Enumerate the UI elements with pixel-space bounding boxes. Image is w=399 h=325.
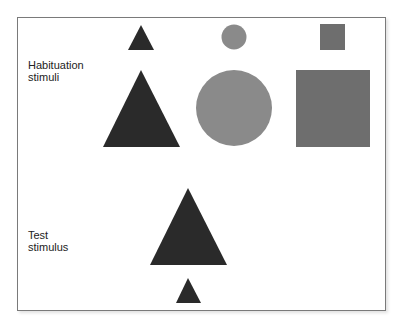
- test-large-triangle-icon: [150, 188, 227, 265]
- large-triangle-icon: [103, 70, 180, 147]
- large-square-icon: [296, 70, 370, 147]
- small-square-icon: [320, 24, 345, 50]
- test-small-triangle-icon: [176, 278, 201, 303]
- small-circle-icon: [222, 25, 247, 50]
- stimuli-canvas: [0, 0, 399, 325]
- small-triangle-icon: [128, 25, 154, 50]
- large-circle-icon: [196, 70, 272, 146]
